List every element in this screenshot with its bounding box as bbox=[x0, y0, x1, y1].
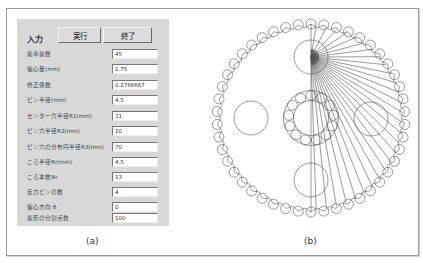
field-label: 偏心量(mm) bbox=[27, 65, 60, 73]
outer-pin bbox=[217, 82, 227, 92]
ray-line bbox=[311, 57, 396, 83]
outer-pin bbox=[400, 119, 410, 129]
outer-pin bbox=[212, 107, 222, 117]
bearing-roller bbox=[301, 135, 311, 145]
outer-pin bbox=[293, 206, 303, 216]
field-input[interactable] bbox=[112, 111, 158, 121]
field-input[interactable] bbox=[112, 80, 158, 90]
bearing-roller bbox=[285, 121, 295, 131]
bearing-roller bbox=[296, 93, 306, 103]
field-label: 修正係数 bbox=[27, 81, 51, 89]
bearing-roller bbox=[287, 100, 297, 110]
outer-pin bbox=[365, 40, 375, 50]
field-input[interactable] bbox=[112, 202, 158, 212]
bearing-roller bbox=[291, 130, 301, 140]
field-input[interactable] bbox=[112, 49, 158, 59]
bearing-roller bbox=[311, 135, 321, 145]
outer-pin bbox=[223, 70, 233, 80]
outer-pin bbox=[389, 156, 399, 166]
outer-pin bbox=[214, 94, 224, 104]
bearing-roller bbox=[328, 110, 338, 120]
ray-line bbox=[311, 57, 402, 103]
ray-line bbox=[311, 57, 392, 163]
outer-pin bbox=[217, 144, 227, 154]
outer-pin bbox=[237, 49, 247, 59]
outer-pin bbox=[247, 40, 257, 50]
field-label: ピン穴の分布円半径R3(mm) bbox=[27, 143, 104, 151]
field-input[interactable] bbox=[112, 64, 158, 74]
outer-pin bbox=[343, 199, 353, 209]
field-input[interactable] bbox=[112, 172, 158, 182]
ray-line bbox=[311, 57, 386, 171]
field-label: 歯形の分割点数 bbox=[27, 214, 69, 222]
outer-pin bbox=[398, 132, 408, 142]
ray-line bbox=[311, 57, 396, 153]
bearing-roller bbox=[321, 130, 331, 140]
field-input[interactable] bbox=[112, 157, 158, 167]
field-label: ピン穴半径R2(mm) bbox=[27, 127, 80, 135]
exit-button[interactable]: 終了 bbox=[103, 27, 152, 43]
caption-a: (a) bbox=[86, 236, 99, 246]
bearing-roller bbox=[327, 121, 337, 131]
field-label: 歯車歯数 bbox=[27, 50, 51, 58]
field-label: センター穴半径R1(mm) bbox=[27, 112, 92, 120]
ray-line bbox=[311, 57, 372, 187]
field-input[interactable] bbox=[112, 95, 158, 105]
outer-pin bbox=[398, 94, 408, 104]
outer-pin bbox=[269, 199, 279, 209]
field-label: 偏心方向 θ bbox=[27, 203, 56, 211]
outer-pin bbox=[223, 156, 233, 166]
field-input[interactable] bbox=[112, 187, 158, 197]
field-input[interactable] bbox=[112, 213, 158, 223]
field-label: ころ半径Rr(mm) bbox=[27, 158, 72, 166]
outer-pin bbox=[237, 177, 247, 187]
outer-pin bbox=[375, 49, 385, 59]
outer-pin bbox=[281, 204, 291, 214]
field-label: ころ本数Nr bbox=[27, 173, 57, 181]
cycloid-reducer-diagram bbox=[200, 0, 423, 235]
field-label: ピン半径(mm) bbox=[27, 96, 66, 104]
outer-pin bbox=[375, 177, 385, 187]
outer-pin bbox=[212, 119, 222, 129]
field-input[interactable] bbox=[112, 142, 158, 152]
outer-pin bbox=[269, 27, 279, 37]
ray-line bbox=[311, 57, 399, 143]
field-label: 反力ピンの数 bbox=[27, 188, 63, 196]
outer-pin bbox=[365, 186, 375, 196]
outer-pin bbox=[293, 20, 303, 30]
outer-pin bbox=[247, 186, 257, 196]
caption-b: (b) bbox=[304, 236, 317, 246]
pin-hole-left bbox=[234, 101, 268, 135]
field-input[interactable] bbox=[112, 126, 158, 136]
input-title: 入力 bbox=[27, 33, 43, 44]
outer-pin bbox=[281, 22, 291, 32]
pin-hole-right bbox=[354, 102, 388, 136]
bearing-roller bbox=[284, 110, 294, 120]
ray-line bbox=[311, 57, 356, 199]
outer-pin bbox=[395, 82, 405, 92]
outer-pin bbox=[214, 132, 224, 142]
run-button[interactable]: 実行 bbox=[58, 27, 101, 43]
outer-pin bbox=[343, 27, 353, 37]
outer-pin bbox=[319, 206, 329, 216]
outer-pin bbox=[389, 70, 399, 80]
outer-pin bbox=[331, 22, 341, 32]
outer-pin bbox=[319, 20, 329, 30]
